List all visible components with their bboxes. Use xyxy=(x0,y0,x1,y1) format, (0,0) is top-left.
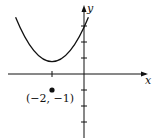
y-axis-label: y xyxy=(87,3,93,14)
vertex-label: (−2, −1) xyxy=(26,93,74,104)
parabola-graph xyxy=(0,0,156,140)
x-axis-label: x xyxy=(145,75,151,86)
y-axis-arrow-icon xyxy=(82,5,87,12)
parabola-curve xyxy=(16,17,89,61)
